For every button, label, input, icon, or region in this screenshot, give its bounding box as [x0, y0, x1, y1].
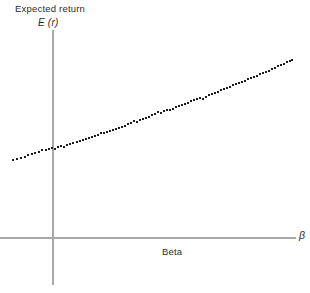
scatter-point — [214, 92, 216, 94]
scatter-point — [291, 59, 293, 61]
scatter-point — [72, 142, 74, 144]
scatter-point — [41, 149, 43, 151]
scatter-point — [241, 81, 243, 83]
scatter-point — [127, 123, 129, 125]
scatter-point — [94, 135, 96, 137]
scatter-point — [106, 131, 108, 133]
scatter-point — [253, 76, 255, 78]
scatter-point — [133, 120, 135, 122]
scatter-point — [283, 63, 285, 65]
scatter-point — [139, 119, 141, 121]
scatter-point — [220, 89, 222, 91]
scatter-point — [20, 157, 22, 159]
scatter-point — [187, 102, 189, 104]
scatter-point — [202, 98, 204, 100]
scatter-point — [169, 109, 171, 111]
scatter-point — [151, 114, 153, 116]
scatter-point — [124, 125, 126, 127]
scatter-point — [289, 60, 291, 62]
scatter-point — [244, 80, 246, 82]
scatter-point — [16, 158, 18, 160]
scatter-point — [121, 126, 123, 128]
scatter-point — [193, 99, 195, 101]
scatter-point — [24, 156, 26, 158]
scatter-point — [190, 100, 192, 102]
scatter-point — [136, 121, 138, 123]
scatter-point — [247, 78, 249, 80]
scatter-point — [45, 149, 47, 151]
scatter-point — [12, 159, 14, 161]
scatter-point — [100, 132, 102, 134]
scatter-point — [280, 64, 282, 66]
scatter-point — [157, 111, 159, 113]
scatter-point — [184, 103, 186, 105]
scatter-point — [175, 106, 177, 108]
scatter-point — [208, 94, 210, 96]
scatter-point — [199, 97, 201, 99]
scatter-point — [145, 117, 147, 119]
scatter-point — [268, 70, 270, 72]
scatter-points — [12, 59, 293, 161]
scatter-point — [54, 148, 56, 150]
scatter-point — [196, 98, 198, 100]
scatter-point — [48, 148, 50, 150]
scatter-point — [109, 130, 111, 132]
scatter-point — [181, 104, 183, 106]
scatter-point — [274, 67, 276, 69]
scatter-point — [34, 152, 36, 154]
scatter-point — [232, 84, 234, 86]
scatter-point — [205, 96, 207, 98]
scatter-point — [82, 139, 84, 141]
scatter-point — [38, 151, 40, 153]
scatter-point — [115, 128, 117, 130]
scatter-point — [130, 122, 132, 124]
scatter-point — [262, 72, 264, 74]
scatter-point — [112, 129, 114, 131]
scatter-point — [27, 154, 29, 156]
scatter-point — [97, 134, 99, 136]
scatter-point — [154, 113, 156, 115]
scatter-point — [250, 77, 252, 79]
scatter-point — [69, 143, 71, 145]
scatter-point — [166, 109, 168, 111]
scatter-point — [259, 73, 261, 75]
scatter-point — [265, 71, 267, 73]
scatter-point — [163, 110, 165, 112]
scatter-point — [142, 118, 144, 120]
scatter-point — [66, 144, 68, 146]
scatter-point — [60, 145, 62, 147]
scatter-point — [79, 140, 81, 142]
scatter-point — [286, 61, 288, 63]
scatter-point — [160, 112, 162, 114]
scatter-point — [148, 116, 150, 118]
scatter-point — [256, 75, 258, 77]
scatter-point — [57, 146, 59, 148]
plot-area — [0, 0, 310, 293]
scatter-point — [76, 141, 78, 143]
scatter-point — [277, 65, 279, 67]
scatter-point — [88, 137, 90, 139]
scatter-point — [229, 86, 231, 88]
scatter-point — [63, 146, 65, 148]
scatter-point — [223, 88, 225, 90]
scatter-point — [271, 68, 273, 70]
scatter-point — [85, 138, 87, 140]
scatter-point — [31, 153, 33, 155]
scatter-point — [103, 132, 105, 134]
scatter-point — [172, 108, 174, 110]
scatter-point — [211, 93, 213, 95]
scatter-point — [178, 105, 180, 107]
scatter-point — [217, 91, 219, 93]
scatter-point — [235, 83, 237, 85]
scatter-point — [238, 82, 240, 84]
security-market-line-chart: Expected return E (r) Beta β — [0, 0, 310, 293]
scatter-point — [91, 136, 93, 138]
scatter-point — [51, 147, 53, 149]
scatter-point — [118, 127, 120, 129]
scatter-point — [226, 87, 228, 89]
